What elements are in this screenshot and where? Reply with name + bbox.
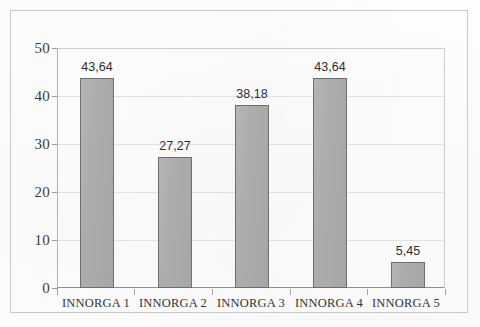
- bar-value-label-innorga-3: 38,18: [217, 87, 287, 101]
- category-label-innorga-4: INNORGA 4: [290, 296, 368, 311]
- bar-innorga-5: [391, 262, 425, 288]
- ytick-label-30: 30: [22, 136, 50, 153]
- category-sep-3: [290, 289, 291, 295]
- category-sep-5: [445, 289, 446, 295]
- category-label-innorga-3: INNORGA 3: [212, 296, 290, 311]
- bar-innorga-2: [158, 157, 192, 288]
- bar-value-label-innorga-2: 27,27: [140, 139, 210, 153]
- bar-value-label-innorga-4: 43,64: [295, 60, 365, 74]
- category-sep-1: [134, 289, 135, 295]
- ytick-label-40: 40: [22, 88, 50, 105]
- category-label-innorga-1: INNORGA 1: [57, 296, 135, 311]
- ytick-label-10: 10: [22, 232, 50, 249]
- category-sep-2: [212, 289, 213, 295]
- bar-innorga-1: [80, 78, 114, 288]
- category-label-innorga-2: INNORGA 2: [134, 296, 212, 311]
- ytick-label-0: 0: [22, 280, 50, 297]
- bar-innorga-3: [235, 105, 269, 288]
- category-label-innorga-5: INNORGA 5: [367, 296, 445, 311]
- ytick-label-20: 20: [22, 184, 50, 201]
- ytick-label-50: 50: [22, 40, 50, 57]
- category-sep-0: [57, 289, 58, 295]
- category-sep-4: [367, 289, 368, 295]
- bar-value-label-innorga-5: 5,45: [373, 244, 443, 258]
- bar-innorga-4: [313, 78, 347, 288]
- bar-chart-figure: 50 40 30 20 10 0 43,64 27,27 38,18 43,64…: [0, 0, 480, 327]
- bar-value-label-innorga-1: 43,64: [62, 60, 132, 74]
